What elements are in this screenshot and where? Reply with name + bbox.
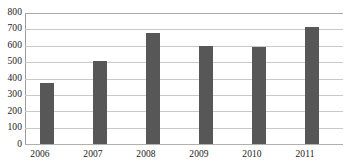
y-tick-label-700: 700 bbox=[0, 24, 22, 34]
y-tick-label-300: 300 bbox=[0, 90, 22, 100]
bar-2011 bbox=[305, 27, 319, 144]
bar-2007 bbox=[93, 61, 107, 144]
x-tick-label-2007: 2007 bbox=[70, 149, 116, 159]
bar-2010 bbox=[252, 47, 266, 144]
gridline-100 bbox=[25, 128, 343, 129]
y-axis-tick-labels: 800 700 600 500 400 300 200 100 0 bbox=[0, 0, 22, 168]
y-tick-label-100: 100 bbox=[0, 123, 22, 133]
gridline-500 bbox=[25, 62, 343, 63]
x-tick-label-2009: 2009 bbox=[176, 149, 222, 159]
bar-2009 bbox=[199, 46, 213, 144]
gridline-0 bbox=[25, 144, 343, 145]
y-tick-label-200: 200 bbox=[0, 107, 22, 117]
x-tick-label-2011: 2011 bbox=[282, 149, 328, 159]
gridline-400 bbox=[25, 79, 343, 80]
y-tick-label-600: 600 bbox=[0, 41, 22, 51]
bar-chart: 800 700 600 500 400 300 200 100 0 2006 2… bbox=[0, 0, 352, 168]
y-tick-label-500: 500 bbox=[0, 57, 22, 67]
gridline-800 bbox=[25, 13, 343, 14]
bar-2006 bbox=[40, 83, 54, 144]
x-tick-label-2010: 2010 bbox=[229, 149, 275, 159]
gridline-200 bbox=[25, 111, 343, 112]
gridline-300 bbox=[25, 95, 343, 96]
plot-area bbox=[25, 13, 343, 144]
x-tick-label-2006: 2006 bbox=[17, 149, 63, 159]
y-tick-label-400: 400 bbox=[0, 74, 22, 84]
bar-2008 bbox=[146, 33, 160, 144]
gridline-700 bbox=[25, 29, 343, 30]
x-tick-label-2008: 2008 bbox=[123, 149, 169, 159]
gridline-600 bbox=[25, 46, 343, 47]
y-tick-label-800: 800 bbox=[0, 8, 22, 18]
